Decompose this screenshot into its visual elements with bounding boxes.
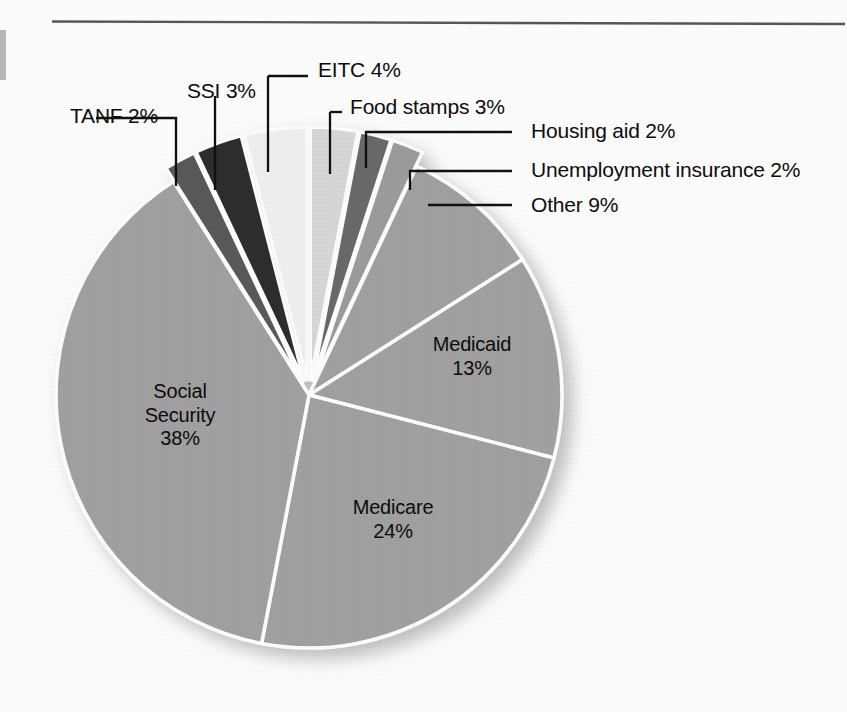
slice-label-other: Other 9% (531, 193, 618, 218)
slice-label-housing-aid: Housing aid 2% (531, 119, 675, 144)
slice-label-food-stamps: Food stamps 3% (350, 95, 505, 120)
slice-label-social-security: Social Security 38% (126, 380, 234, 451)
slice-label-medicaid-value: 13% (424, 357, 520, 381)
slice-label-medicaid-name: Medicaid (424, 333, 520, 357)
slice-label-medicare-value: 24% (341, 520, 445, 544)
slice-label-social-security-line1: Social (126, 380, 234, 404)
slice-label-medicare-name: Medicare (341, 496, 445, 520)
top-rule (52, 22, 845, 25)
slice-label-social-security-line2: Security (126, 404, 234, 428)
slice-label-ssi: SSI 3% (187, 79, 256, 104)
chart-figure: Food stamps 3%Housing aid 2%Unemployment… (0, 0, 847, 712)
slice-label-social-security-value: 38% (126, 427, 234, 451)
slice-label-tanf: TANF 2% (70, 104, 158, 129)
slice-label-medicare: Medicare 24% (341, 496, 445, 543)
slice-label-unemployment-insurance: Unemployment insurance 2% (531, 158, 800, 183)
slice-label-medicaid: Medicaid 13% (424, 333, 520, 380)
slice-label-eitc: EITC 4% (318, 58, 401, 83)
